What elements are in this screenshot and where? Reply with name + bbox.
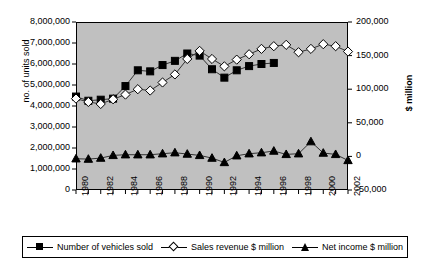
chart-plot-area: no. of units sold $ million 01,000,0002,… <box>0 0 430 232</box>
legend-item-sales-revenue: Sales revenue $ million <box>161 242 284 252</box>
legend-label-sales-revenue: Sales revenue $ million <box>191 242 284 252</box>
filled-square-icon <box>27 242 53 252</box>
filled-triangle-icon <box>292 242 318 252</box>
open-diamond-icon <box>161 242 187 252</box>
chart-series-overlay <box>0 0 430 232</box>
legend-item-vehicles: Number of vehicles sold <box>27 242 153 252</box>
legend-label-vehicles: Number of vehicles sold <box>57 242 153 252</box>
legend-item-net-income: Net income $ million <box>292 242 403 252</box>
chart-figure: no. of units sold $ million 01,000,0002,… <box>0 0 430 270</box>
legend-label-net-income: Net income $ million <box>322 242 403 252</box>
chart-legend: Number of vehicles sold Sales revenue $ … <box>22 236 408 258</box>
